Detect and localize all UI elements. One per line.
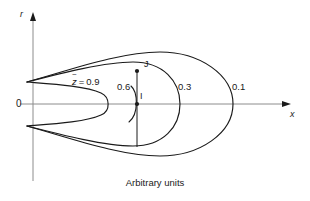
contour-label-0-9: ~z=0.9	[72, 77, 100, 87]
r-axis-label: r	[20, 10, 23, 19]
origin-label: 0	[16, 99, 22, 109]
tilde-accent: ~	[72, 71, 77, 79]
contour-label-0-3: 0.3	[178, 82, 191, 92]
point-I-label: I	[140, 92, 143, 101]
equals-sign: =	[79, 76, 85, 87]
contour-value-0-9: 0.9	[86, 76, 99, 87]
contour-plot	[0, 0, 310, 201]
x-axis	[20, 101, 291, 107]
point-J-dot	[135, 69, 139, 73]
figure-container: r x 0 ~z=0.9 0.6 0.3 0.1 J I Arbitrary u…	[0, 0, 310, 201]
contour-label-0-1: 0.1	[232, 82, 245, 92]
r-axis	[30, 12, 36, 181]
x-axis-label: x	[290, 110, 295, 119]
contour-label-0-6: 0.6	[117, 82, 130, 92]
figure-caption: Arbitrary units	[0, 178, 310, 188]
point-J-label: J	[144, 60, 149, 69]
point-I-dot	[135, 102, 139, 106]
z-tilde-symbol: ~z	[72, 77, 77, 87]
